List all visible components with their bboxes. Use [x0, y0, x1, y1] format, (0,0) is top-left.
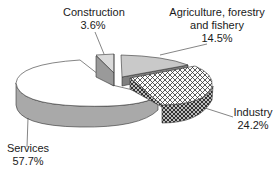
leader-construction [95, 32, 104, 54]
label-services-name: Services [4, 142, 52, 155]
label-construction: Construction 3.6% [63, 6, 123, 32]
label-agriculture: Agriculture, forestry and fishery 14.5% [162, 6, 272, 45]
label-industry-name: Industry [230, 106, 276, 119]
label-services-pct: 57.7% [4, 155, 52, 168]
label-industry-pct: 24.2% [230, 119, 276, 132]
leader-agriculture [160, 44, 207, 55]
label-agriculture-pct: 14.5% [162, 32, 272, 45]
label-construction-name: Construction [63, 6, 123, 19]
label-agriculture-name-2: and fishery [162, 19, 272, 32]
leader-industry [205, 108, 233, 117]
label-construction-pct: 3.6% [63, 19, 123, 32]
label-services: Services 57.7% [4, 142, 52, 168]
label-industry: Industry 24.2% [230, 106, 276, 132]
label-agriculture-name: Agriculture, forestry [162, 6, 272, 19]
